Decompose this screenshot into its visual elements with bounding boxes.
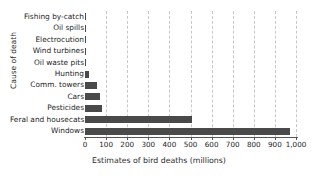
- x-axis-tick-label: 500: [184, 141, 198, 149]
- bar: [85, 105, 102, 112]
- bird-deaths-bar-chart: Cause of death Fishing by-catchOil spill…: [0, 0, 318, 178]
- bar: [85, 93, 100, 100]
- x-axis-tick-label: 600: [205, 141, 219, 149]
- y-axis-tick-label: Comm. towers: [10, 81, 84, 89]
- y-axis-tick-label: Fishing by-catch: [10, 13, 84, 21]
- bar: [85, 13, 86, 20]
- x-axis-tick-label: 900: [268, 141, 282, 149]
- bar: [85, 25, 86, 32]
- bar: [85, 71, 89, 78]
- x-axis-tick-label: 800: [247, 141, 261, 149]
- x-axis-tick-label: 1,000: [286, 141, 307, 149]
- plot-area: [85, 11, 296, 137]
- bar: [85, 59, 86, 66]
- bar: [85, 48, 86, 55]
- bar: [85, 36, 86, 43]
- y-axis-tick-label: Oil waste pits: [10, 59, 84, 67]
- y-axis-tick-label: Oil spills: [10, 24, 84, 32]
- x-axis-tick-label: 0: [83, 141, 88, 149]
- x-axis-tick-label: 400: [163, 141, 177, 149]
- x-axis-tick-label: 700: [226, 141, 240, 149]
- bar: [85, 82, 97, 89]
- y-axis-tick-label: Windows: [10, 127, 84, 135]
- gridline: [233, 11, 234, 137]
- gridline: [296, 11, 297, 137]
- gridline: [212, 11, 213, 137]
- y-axis-tick-label: Hunting: [10, 70, 84, 78]
- gridline: [275, 11, 276, 137]
- y-axis-tick-label: Wind turbines: [10, 47, 84, 55]
- x-axis-tick-label: 300: [141, 141, 155, 149]
- bar: [85, 128, 290, 135]
- gridline: [254, 11, 255, 137]
- x-axis-title: Estimates of bird deaths (millions): [0, 156, 318, 165]
- x-axis-tick-label: 100: [99, 141, 113, 149]
- y-axis-tick-label: Cars: [10, 93, 84, 101]
- x-axis-tick-label: 200: [120, 141, 134, 149]
- y-axis-tick-label: Pesticides: [10, 104, 84, 112]
- bar: [85, 116, 192, 123]
- y-axis-tick-label: Electrocution: [10, 36, 84, 44]
- y-axis-tick-label: Feral and housecats: [10, 116, 84, 124]
- y-axis-tick-labels: Fishing by-catchOil spillsElectrocutionW…: [10, 11, 84, 137]
